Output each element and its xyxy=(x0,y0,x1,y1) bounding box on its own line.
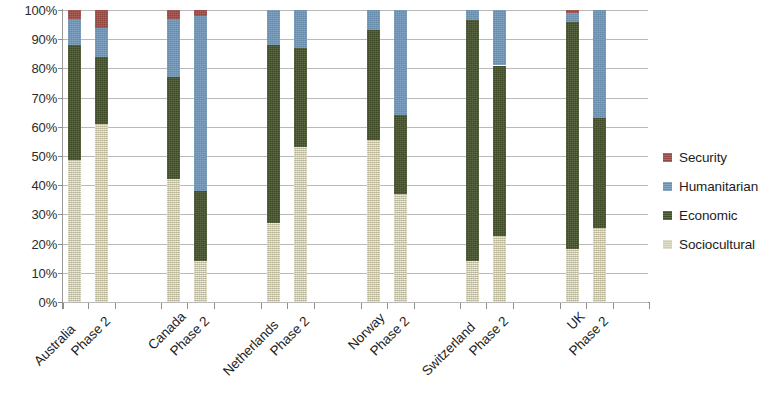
bar-segment-humanitarian xyxy=(167,19,180,77)
bar-segment-security xyxy=(95,10,108,28)
x-axis-tick xyxy=(214,303,215,309)
gridline xyxy=(63,214,648,215)
y-axis-tick xyxy=(58,185,63,186)
bar-segment-humanitarian xyxy=(194,16,207,191)
bar-segment-sociocultural xyxy=(566,249,579,302)
gridline xyxy=(63,244,648,245)
legend-item-economic[interactable]: Economic xyxy=(663,201,775,230)
legend-swatch-icon xyxy=(663,182,672,191)
x-axis-tick xyxy=(361,303,362,309)
bar-segment-security xyxy=(566,10,579,13)
bar-segment-economic xyxy=(194,191,207,261)
x-axis-label-phase-2-9: Phase 2 xyxy=(466,313,511,358)
bar-segment-economic xyxy=(466,20,479,261)
stacked-bar-chart: 0%10%20%30%40%50%60%70%80%90%100% Austra… xyxy=(0,0,778,401)
bar-segment-economic xyxy=(367,30,380,140)
legend-item-humanitarian[interactable]: Humanitarian xyxy=(663,172,775,201)
x-axis-tick xyxy=(560,303,561,309)
gridline xyxy=(63,39,648,40)
bar-segment-sociocultural xyxy=(68,160,81,302)
bar-segment-sociocultural xyxy=(394,194,407,302)
x-axis-tick xyxy=(88,303,89,309)
y-axis-tick-label: 50% xyxy=(32,149,57,164)
legend-swatch-icon xyxy=(663,153,672,162)
x-axis-tick xyxy=(161,303,162,309)
x-axis-tick xyxy=(486,303,487,309)
bar-segment-humanitarian xyxy=(367,10,380,30)
y-axis-tick-label: 70% xyxy=(32,90,57,105)
x-axis-tick xyxy=(513,303,514,309)
y-axis-tick-label: 100% xyxy=(25,3,57,18)
bar-segment-humanitarian xyxy=(493,10,506,65)
legend-swatch-icon xyxy=(663,211,672,220)
gridline xyxy=(63,127,648,128)
x-axis-tick xyxy=(387,303,388,309)
bar-segment-economic xyxy=(593,118,606,228)
bar-segment-economic xyxy=(267,45,280,223)
x-axis-tick xyxy=(63,303,64,309)
y-axis-tick-label: 0% xyxy=(39,295,57,310)
legend-label: Sociocultural xyxy=(679,237,755,252)
y-axis-tick xyxy=(58,156,63,157)
y-axis-tick xyxy=(58,68,63,69)
x-axis-label-phase-2-5: Phase 2 xyxy=(267,313,312,358)
x-axis-tick xyxy=(314,303,315,309)
x-axis-label-netherlands-4: Netherlands xyxy=(220,317,281,378)
bar-segment-humanitarian xyxy=(566,13,579,22)
y-axis-tick xyxy=(58,214,63,215)
x-axis-label-uk-10: UK xyxy=(564,309,588,333)
gridline xyxy=(63,273,648,274)
plot-area xyxy=(63,10,648,302)
bar-segment-humanitarian xyxy=(95,28,108,57)
legend-swatch-icon xyxy=(663,240,672,249)
y-axis-tick xyxy=(58,98,63,99)
x-axis-tick xyxy=(261,303,262,309)
bar-segment-humanitarian xyxy=(394,10,407,115)
x-axis-label-norway-6: Norway xyxy=(345,311,388,354)
x-axis-label-canada-2: Canada xyxy=(145,309,189,353)
y-axis-tick-label: 40% xyxy=(32,178,57,193)
x-axis-tick xyxy=(287,303,288,309)
x-axis-tick xyxy=(649,303,650,309)
bar-segment-sociocultural xyxy=(493,236,506,302)
bar-segment-humanitarian xyxy=(68,19,81,45)
y-axis-tick xyxy=(58,127,63,128)
bar-segment-economic xyxy=(167,77,180,179)
x-axis-label-phase-2-7: Phase 2 xyxy=(367,313,412,358)
bar-segment-sociocultural xyxy=(194,261,207,302)
legend-item-security[interactable]: Security xyxy=(663,143,775,172)
x-axis-tick xyxy=(187,303,188,309)
bar-segment-sociocultural xyxy=(367,140,380,302)
y-axis-tick-label: 10% xyxy=(32,265,57,280)
y-axis-tick-label: 30% xyxy=(32,207,57,222)
x-axis-label-phase-2-1: Phase 2 xyxy=(68,313,113,358)
legend-label: Humanitarian xyxy=(679,179,758,194)
gridline xyxy=(63,185,648,186)
bar-segment-economic xyxy=(294,48,307,147)
x-axis-label-phase-2-11: Phase 2 xyxy=(566,313,611,358)
x-axis-tick xyxy=(613,303,614,309)
y-axis-tick xyxy=(58,10,63,11)
gridline xyxy=(63,98,648,99)
y-axis-tick xyxy=(58,39,63,40)
y-axis-tick xyxy=(58,244,63,245)
bar-segment-sociocultural xyxy=(466,261,479,302)
bar-segment-humanitarian xyxy=(294,10,307,48)
bar-segment-economic xyxy=(95,57,108,124)
y-axis-tick-label: 20% xyxy=(32,236,57,251)
chart-legend: SecurityHumanitarianEconomicSociocultura… xyxy=(663,143,775,259)
legend-label: Economic xyxy=(679,208,737,223)
bar-segment-humanitarian xyxy=(593,10,606,118)
x-axis-label-switzerland-8: Switzerland xyxy=(419,319,478,378)
x-axis-label-phase-2-3: Phase 2 xyxy=(167,313,212,358)
gridline xyxy=(63,156,648,157)
bar-segment-security xyxy=(167,10,180,19)
gridline xyxy=(63,68,648,69)
y-axis-tick-label: 90% xyxy=(32,32,57,47)
bar-segment-sociocultural xyxy=(95,124,108,302)
x-axis-label-australia-0: Australia xyxy=(31,321,78,368)
y-axis-labels: 0%10%20%30%40%50%60%70%80%90%100% xyxy=(0,10,57,302)
legend-item-sociocultural[interactable]: Sociocultural xyxy=(663,230,775,259)
x-axis-tick xyxy=(586,303,587,309)
bar-segment-economic xyxy=(493,66,506,237)
